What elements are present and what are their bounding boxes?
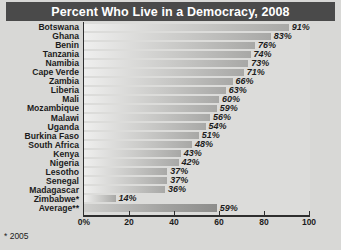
bar-value-label: 83%	[274, 31, 292, 42]
x-tick-mark	[174, 211, 175, 215]
bar	[84, 96, 219, 103]
x-tick-mark	[309, 211, 310, 215]
x-tick-mark	[264, 211, 265, 215]
bar	[84, 123, 206, 130]
bar	[84, 42, 255, 49]
bar	[84, 132, 199, 139]
bar	[84, 195, 116, 202]
bar	[84, 51, 251, 58]
bar	[84, 168, 167, 175]
bar	[84, 87, 226, 94]
average-row: Average**59%	[0, 204, 341, 213]
x-tick-label-60: 60	[214, 217, 223, 227]
chart-title-band: Percent Who Live in a Democracy, 2008	[6, 2, 335, 21]
x-tick-mark	[219, 211, 220, 215]
bar	[84, 150, 181, 157]
country-label: Average**	[0, 203, 79, 213]
bar	[84, 33, 271, 40]
bar	[84, 69, 244, 76]
x-tick-mark	[129, 211, 130, 215]
bar	[84, 105, 217, 112]
bar	[84, 60, 248, 67]
bar	[84, 141, 192, 148]
bar-value-label: 59%	[220, 203, 238, 214]
x-tick-label-100: 100	[302, 217, 316, 227]
x-tick-label-20: 20	[124, 217, 133, 227]
footnote: * 2005	[4, 231, 29, 241]
average-bar	[84, 204, 217, 212]
bar-value-label: 36%	[168, 184, 186, 195]
x-tick-label-0: 0%	[78, 217, 90, 227]
x-tick-label-80: 80	[259, 217, 268, 227]
bar	[84, 114, 210, 121]
bar	[84, 24, 289, 31]
bar	[84, 177, 167, 184]
x-tick-label-40: 40	[169, 217, 178, 227]
bar	[84, 186, 165, 193]
bar-value-label: 14%	[119, 193, 137, 204]
x-axis-line	[83, 215, 310, 217]
page-title: Percent Who Live in a Democracy, 2008	[51, 5, 289, 19]
bar-value-label: 91%	[292, 22, 310, 33]
democracy-bar-chart: Percent Who Live in a Democracy, 2008 Bo…	[0, 0, 341, 250]
bar	[84, 78, 233, 85]
bar	[84, 159, 179, 166]
